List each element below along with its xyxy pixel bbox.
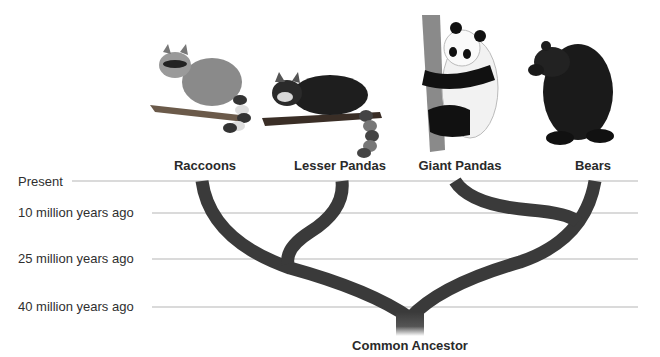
taxon-label-bears: Bears <box>575 158 611 173</box>
time-label-10-million: 10 million years ago <box>18 205 134 220</box>
taxon-label-lesser-pandas: Lesser Pandas <box>294 158 386 173</box>
time-label-present: Present <box>18 174 63 189</box>
giant-panda-branch <box>455 181 578 222</box>
taxon-label-giant-pandas: Giant Pandas <box>418 158 501 173</box>
raccoon-branch <box>202 181 410 318</box>
time-label-40-million: 40 million years ago <box>18 299 134 314</box>
phylogenetic-tree-diagram: Present 10 million years ago 25 million … <box>0 0 660 357</box>
lesser-panda-branch <box>288 181 343 264</box>
taxon-label-raccoons: Raccoons <box>174 158 236 173</box>
common-ancestor-label: Common Ancestor <box>352 338 468 353</box>
tree-branches <box>202 181 595 318</box>
time-label-25-million: 25 million years ago <box>18 251 134 266</box>
common-ancestor-trunk <box>396 312 424 336</box>
